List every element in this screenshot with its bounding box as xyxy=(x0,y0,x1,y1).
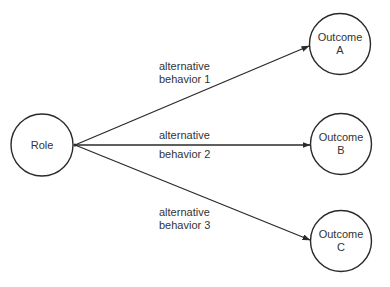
edge-2-label-line1: alternative xyxy=(159,129,210,142)
outcome-a-node-label: Outcome A xyxy=(318,31,363,57)
edge-1-label-line2: behavior 1 xyxy=(159,73,210,86)
edge-3-label-line1: alternative xyxy=(159,206,210,219)
outcome-c-label-line1: Outcome xyxy=(319,228,364,241)
outcome-b-node-label: Outcome B xyxy=(319,131,364,157)
edge-label-behavior-2-top: alternative xyxy=(159,129,210,142)
outcome-b-label-line2: B xyxy=(319,144,364,157)
edge-3-label-line2: behavior 3 xyxy=(159,219,210,232)
outcome-a-label-line2: A xyxy=(318,44,363,57)
outcome-a-label-line1: Outcome xyxy=(318,31,363,44)
role-label-text: Role xyxy=(31,139,54,151)
outcome-b-label-line1: Outcome xyxy=(319,131,364,144)
outcome-c-node-label: Outcome C xyxy=(319,228,364,254)
outcome-c-label-line2: C xyxy=(319,241,364,254)
edge-2-label-line2: behavior 2 xyxy=(159,148,210,161)
edge-1-label-line1: alternative xyxy=(159,60,210,73)
edge-label-behavior-3: alternative behavior 3 xyxy=(159,206,210,232)
role-node-label: Role xyxy=(31,139,54,152)
edge-label-behavior-1: alternative behavior 1 xyxy=(159,60,210,86)
edge-label-behavior-2-bottom: behavior 2 xyxy=(159,148,210,161)
arrow-origin-dot xyxy=(73,143,76,146)
